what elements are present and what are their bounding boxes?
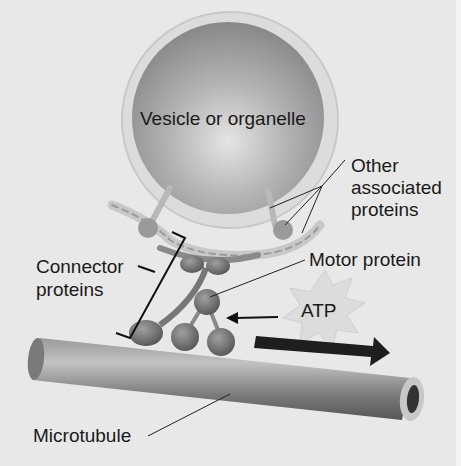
microtubule-label: Microtubule bbox=[33, 425, 131, 447]
other-proteins-label-line2: associated bbox=[351, 177, 442, 199]
other-proteins-label-line3: proteins bbox=[351, 199, 419, 221]
motor-protein-label: Motor protein bbox=[309, 249, 421, 271]
direction-arrow-icon bbox=[254, 336, 390, 366]
vesicle-label: Vesicle or organelle bbox=[140, 108, 306, 130]
atp-label: ATP bbox=[301, 300, 337, 322]
diagram-graphics bbox=[0, 0, 461, 466]
atp-arrow-icon bbox=[226, 312, 278, 324]
connector-proteins-label-line2: proteins bbox=[36, 279, 104, 301]
diagram: Vesicle or organelle Other associated pr… bbox=[0, 0, 461, 466]
connector-proteins-label-line1: Connector bbox=[36, 256, 124, 278]
motor-protein bbox=[129, 255, 235, 356]
other-proteins-label-line1: Other bbox=[351, 155, 399, 177]
